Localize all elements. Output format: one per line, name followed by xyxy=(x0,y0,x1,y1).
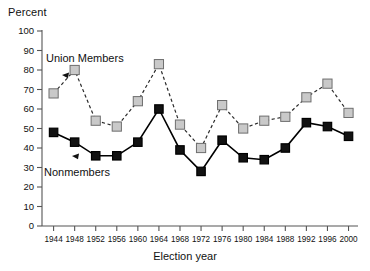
y-axis-tick-label: 20 xyxy=(23,181,34,192)
x-axis-tick-label: 1956 xyxy=(108,235,127,244)
data-point-marker xyxy=(281,112,290,121)
data-point-marker xyxy=(134,138,142,146)
x-axis-tick-label: 1992 xyxy=(297,235,316,244)
series-line-union-members xyxy=(54,64,349,148)
data-point-marker xyxy=(49,128,57,136)
y-axis-tick-label: 50 xyxy=(23,123,34,134)
x-axis-tick-label: 1988 xyxy=(276,235,295,244)
x-axis-title: Election year xyxy=(0,250,370,262)
data-point-marker xyxy=(218,136,226,144)
data-point-marker xyxy=(344,132,352,140)
x-axis-tick-label: 1972 xyxy=(192,235,211,244)
data-point-marker xyxy=(70,65,79,74)
x-axis-tick-label: 1976 xyxy=(213,235,232,244)
y-axis-tick-label: 0 xyxy=(29,220,34,231)
data-point-marker xyxy=(91,116,100,125)
x-axis-tick-label: 1948 xyxy=(66,235,85,244)
y-axis-tick-label: 10 xyxy=(23,201,34,212)
series-label-union-members: Union Members xyxy=(46,52,124,64)
data-point-marker xyxy=(260,116,269,125)
x-axis-tick-label: 1984 xyxy=(255,235,274,244)
data-point-marker xyxy=(113,152,121,160)
data-point-marker xyxy=(302,93,311,102)
x-axis-tick-label: 1944 xyxy=(44,235,63,244)
y-axis-tick-label: 70 xyxy=(23,84,34,95)
data-point-marker xyxy=(323,79,332,88)
data-point-marker xyxy=(176,146,184,154)
data-point-marker xyxy=(92,152,100,160)
y-axis-tick-label: 40 xyxy=(23,142,34,153)
y-axis-tick-label: 30 xyxy=(23,162,34,173)
data-point-marker xyxy=(239,124,248,133)
data-point-marker xyxy=(112,122,121,131)
y-axis-tick-label: 100 xyxy=(18,25,34,36)
data-point-marker xyxy=(133,97,142,106)
data-point-marker xyxy=(323,122,331,130)
y-axis-tick-label: 80 xyxy=(23,64,34,75)
data-point-marker xyxy=(197,167,205,175)
y-axis-tick-label: 60 xyxy=(23,103,34,114)
x-axis-tick-label: 1980 xyxy=(234,235,253,244)
data-point-marker xyxy=(49,89,58,98)
x-axis-tick-label: 1968 xyxy=(171,235,190,244)
data-point-marker xyxy=(155,105,163,113)
x-axis-tick-label: 1964 xyxy=(150,235,169,244)
series-label-nonmembers: Nonmembers xyxy=(44,166,110,178)
annotation-arrow-nonmembers xyxy=(72,153,79,159)
data-point-marker xyxy=(196,143,205,152)
data-point-marker xyxy=(154,60,163,69)
line-chart-plot: 0102030405060708090100194419481952195619… xyxy=(0,0,370,271)
y-axis-tick-label: 90 xyxy=(23,45,34,56)
data-point-marker xyxy=(218,101,227,110)
data-point-marker xyxy=(70,138,78,146)
x-axis-tick-label: 1952 xyxy=(87,235,106,244)
x-axis-tick-label: 1996 xyxy=(318,235,337,244)
data-point-marker xyxy=(302,118,310,126)
data-point-marker xyxy=(344,108,353,117)
x-axis-tick-label: 1960 xyxy=(129,235,148,244)
data-point-marker xyxy=(175,120,184,129)
chart-container: Percent 01020304050607080901001944194819… xyxy=(0,0,370,271)
data-point-marker xyxy=(260,156,268,164)
x-axis-tick-label: 2000 xyxy=(339,235,358,244)
annotation-arrow-union-members xyxy=(62,72,69,78)
data-point-marker xyxy=(239,154,247,162)
data-point-marker xyxy=(281,144,289,152)
